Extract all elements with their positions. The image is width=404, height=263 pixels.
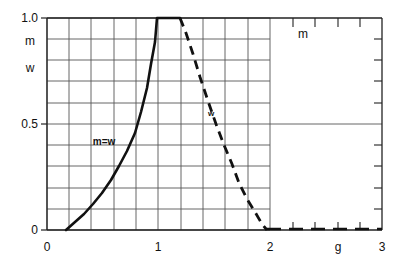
- chart-figure: 1.0 0.5 0 m w 0 1 2 3 g m m=w w: [0, 0, 404, 263]
- x-axis-label-g: g: [335, 240, 342, 254]
- x-tick-label-2: 2: [267, 240, 274, 254]
- y-axis-label-w: w: [25, 61, 35, 75]
- y-tick-label-1: 1.0: [21, 11, 38, 25]
- annotation-w: w: [207, 109, 215, 118]
- top-axis-ticks: [293, 18, 360, 27]
- x-tick-label-3: 3: [379, 240, 386, 254]
- bottom-axis-ticks: [293, 222, 360, 230]
- annotation-m-equals-w: m=w: [93, 136, 116, 147]
- left-axis-ticks: [41, 18, 47, 230]
- y-axis-label-m: m: [25, 34, 35, 48]
- y-tick-label-0: 0: [31, 223, 38, 237]
- chart-gridlines: [47, 18, 270, 230]
- x-tick-label-1: 1: [155, 240, 162, 254]
- x-tick-label-0: 0: [44, 240, 51, 254]
- top-axis-label-m: m: [298, 27, 308, 41]
- y-tick-label-0point5: 0.5: [21, 117, 38, 131]
- chart-plot-area: 1.0 0.5 0 m w 0 1 2 3 g m m=w w: [0, 0, 404, 263]
